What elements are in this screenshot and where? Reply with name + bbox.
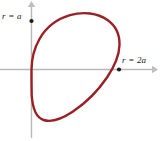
y-axis-arrowhead [28,1,35,7]
point-marker-r-2a [117,67,121,71]
label-r-equals-2a: r = 2a [122,56,146,65]
plot-canvas [0,0,160,141]
x-axis-arrowhead [152,66,158,73]
cardioid-curve [32,13,120,121]
point-marker-r-a [29,19,33,23]
label-r-equals-a: r = a [2,12,22,21]
cardioid-figure: r = a r = 2a [0,0,160,141]
